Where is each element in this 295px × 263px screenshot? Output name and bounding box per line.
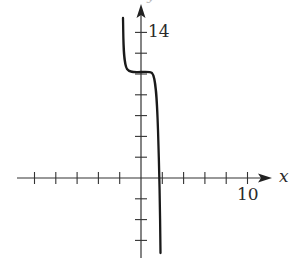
x-axis-label: x bbox=[279, 166, 289, 186]
y-tick-label-14: 14 bbox=[148, 21, 170, 41]
x-tick-label-10: 10 bbox=[237, 184, 259, 204]
y-axis-label: y bbox=[147, 0, 154, 3]
